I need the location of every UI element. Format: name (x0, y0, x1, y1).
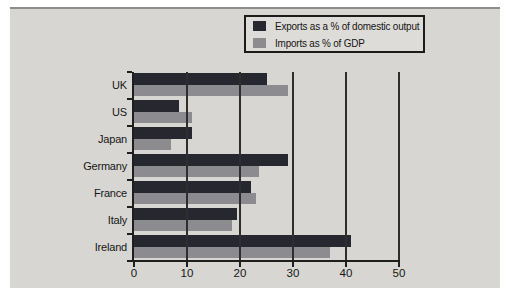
category-label-germany: Germany (0, 153, 127, 180)
gridline-30 (292, 72, 294, 260)
imports-bar-japan (134, 139, 171, 150)
gridline-40 (345, 72, 347, 260)
x-tick-label-20: 20 (225, 267, 255, 279)
category-label-uk: UK (0, 72, 127, 99)
exports-bar-uk (134, 73, 267, 85)
gridline-50 (398, 72, 400, 260)
x-tick-label-40: 40 (331, 267, 361, 279)
category-label-japan: Japan (0, 126, 127, 153)
gridline-20 (239, 72, 241, 260)
legend-entry-imports: Imports as % of GDP (253, 36, 423, 50)
category-label-italy: Italy (0, 207, 127, 234)
exports-bar-germany (134, 154, 288, 166)
imports-bar-us (134, 112, 192, 123)
legend-box: Exports as a % of domestic output Import… (244, 15, 425, 53)
imports-bar-uk (134, 85, 288, 96)
x-tick-label-30: 30 (278, 267, 308, 279)
exports-color-swatch-icon (253, 21, 266, 31)
imports-bar-italy (134, 220, 232, 231)
category-label-ireland: Ireland (0, 234, 127, 261)
x-axis-line (128, 260, 400, 262)
x-tick-label-10: 10 (172, 267, 202, 279)
exports-bar-ireland (134, 235, 351, 247)
legend-entry-exports: Exports as a % of domestic output (253, 19, 423, 33)
imports-bar-ireland (134, 247, 330, 258)
imports-color-swatch-icon (253, 38, 266, 48)
legend-label-imports: Imports as % of GDP (275, 37, 365, 49)
imports-bar-france (134, 193, 256, 204)
exports-bar-japan (134, 127, 192, 139)
exports-bar-us (134, 100, 179, 112)
gridline-10 (186, 72, 188, 260)
y-axis-line (132, 72, 134, 262)
x-tick-label-50: 50 (384, 267, 414, 279)
category-label-us: US (0, 99, 127, 126)
category-label-france: France (0, 180, 127, 207)
exports-bar-france (134, 181, 251, 193)
legend-label-exports: Exports as a % of domestic output (275, 20, 419, 32)
x-tick-label-0: 0 (119, 267, 149, 279)
